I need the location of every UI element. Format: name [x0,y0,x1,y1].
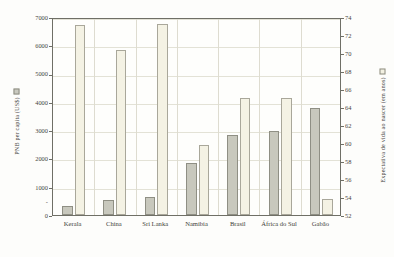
left-axis-tick-label: 4000 [8,100,48,106]
right-axis-tick-mark [341,216,344,217]
chart-container: PNB per capita (US$) Expectativa de vida… [0,0,394,257]
category-label: Gabão [300,221,341,228]
bar-income [227,135,238,215]
bar-income [145,197,156,215]
category-label: Kerala [52,221,93,228]
bar-life-expectancy [281,98,292,215]
category-label: Brasil [217,221,258,228]
legend-swatch-income-icon [13,88,19,94]
right-axis-tick-label: 66 [345,87,385,93]
bar-income [310,108,321,215]
right-axis-tick-label: 54 [345,195,385,201]
right-axis-tick-mark [341,126,344,127]
right-axis-tick-mark [341,198,344,199]
bar-life-expectancy [157,24,168,215]
left-axis-minor-dash: - [8,199,48,205]
right-axis-tick-mark [341,54,344,55]
category-label: África do Sul [258,221,299,228]
left-axis-tick-label: 0 [8,213,48,219]
left-axis-tick-label: 1000 [8,185,48,191]
right-axis-tick-mark [341,180,344,181]
right-axis-tick-mark [341,144,344,145]
bar-income [269,131,280,215]
left-axis-title: PNB per capita (US$) [13,62,20,182]
right-axis-tick-mark [341,90,344,91]
left-axis-tick-label: 7000 [8,15,48,21]
left-axis-tick-mark [49,216,52,217]
bar-income [186,163,197,215]
right-axis-tick-label: 60 [345,141,385,147]
bar-income [103,200,114,215]
left-axis-tick-label: 3000 [8,128,48,134]
bar-income [62,206,73,215]
plot-area [52,18,341,216]
bar-life-expectancy [75,25,86,215]
category-label: China [93,221,134,228]
right-axis-tick-label: 64 [345,105,385,111]
bar-life-expectancy [116,50,127,215]
bar-life-expectancy [240,98,251,215]
bar-life-expectancy [322,199,333,215]
right-axis-tick-mark [341,162,344,163]
right-axis-tick-mark [341,108,344,109]
bars-layer [53,19,340,215]
bar-life-expectancy [199,145,210,215]
right-axis-tick-label: 52 [345,213,385,219]
category-label: Sri Lanka [135,221,176,228]
right-axis-tick-label: 56 [345,177,385,183]
right-axis-tick-mark [341,72,344,73]
right-axis-tick-label: 62 [345,123,385,129]
category-label: Namíbia [176,221,217,228]
right-axis-tick-label: 72 [345,33,385,39]
right-axis-tick-mark [341,18,344,19]
right-axis-tick-label: 74 [345,15,385,21]
left-axis-tick-label: 6000 [8,43,48,49]
left-axis-tick-label: 2000 [8,156,48,162]
right-axis-tick-label: 70 [345,51,385,57]
right-axis-tick-mark [341,36,344,37]
right-axis-tick-label: 58 [345,159,385,165]
right-axis-tick-label: 68 [345,69,385,75]
left-axis-tick-label: 5000 [8,71,48,77]
